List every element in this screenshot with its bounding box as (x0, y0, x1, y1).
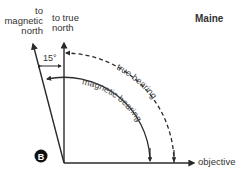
point-b-label: B (38, 152, 45, 162)
bearing-diagram: 15° true bearing magnetic bearing B (0, 0, 246, 174)
declination-label: 15° (43, 53, 57, 63)
